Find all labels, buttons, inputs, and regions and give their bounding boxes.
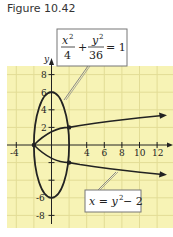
y-tick-label: 8 xyxy=(41,70,47,80)
y-tick-label: 2 xyxy=(41,123,47,133)
svg-text:= 1: = 1 xyxy=(106,41,126,54)
svg-text:36: 36 xyxy=(89,49,103,62)
x-tick-label: 6 xyxy=(102,148,108,158)
svg-text:2: 2 xyxy=(99,33,103,41)
x-tick-label: 4 xyxy=(84,148,90,158)
intersection-point xyxy=(67,125,71,129)
y-axis-label: y xyxy=(43,54,50,64)
x-tick-label: 10 xyxy=(134,148,146,158)
svg-text:2: 2 xyxy=(69,33,73,41)
parabola-equation: x = y 2 − 2 xyxy=(89,194,143,208)
intersection-point xyxy=(32,143,36,147)
svg-text:x = y: x = y xyxy=(89,195,118,208)
y-axis-arrow-icon xyxy=(49,58,54,65)
svg-text:4: 4 xyxy=(64,49,71,62)
svg-text:+: + xyxy=(78,41,87,54)
y-tick-label: -8 xyxy=(36,211,45,221)
svg-text:x: x xyxy=(62,34,69,47)
x-tick-label: -4 xyxy=(10,148,19,158)
svg-text:y: y xyxy=(91,34,99,47)
svg-text:− 2: − 2 xyxy=(123,195,143,208)
graph: y -4 4 6 8 10 12 8 6 4 2 -6 -8 xyxy=(0,0,173,237)
x-tick-label: 12 xyxy=(152,148,163,158)
intersection-point xyxy=(67,160,71,164)
y-tick-label: -6 xyxy=(36,193,45,203)
y-tick-label: 4 xyxy=(41,105,47,115)
x-tick-label: 8 xyxy=(119,148,125,158)
